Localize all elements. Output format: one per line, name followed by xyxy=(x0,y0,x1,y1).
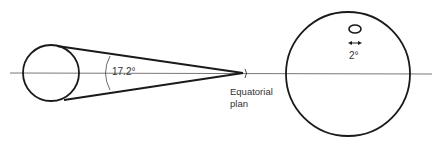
cone-upper-line xyxy=(57,46,243,73)
diagram-canvas: 17.2° Equatorial plan 2° xyxy=(0,0,443,144)
equatorial-axis-line xyxy=(10,73,432,74)
angle-label: 17.2° xyxy=(112,66,135,77)
double-arrow-icon xyxy=(348,41,362,45)
small-angle-label: 2° xyxy=(349,50,359,61)
equatorial-label-line2: plan xyxy=(230,98,248,109)
small-ellipse xyxy=(349,25,361,33)
equatorial-label-line1: Equatorial xyxy=(230,86,273,97)
cone-lower-line xyxy=(64,73,243,100)
